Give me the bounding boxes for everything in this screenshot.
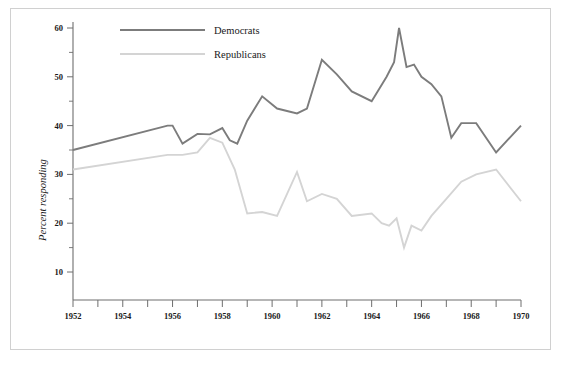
y-tick-label: 20	[55, 218, 64, 228]
y-tick-label: 50	[55, 72, 64, 82]
data-series-group	[73, 28, 521, 248]
x-tick-label: 1968	[463, 311, 480, 321]
x-tick-label: 1956	[164, 311, 181, 321]
x-tick-label: 1964	[363, 311, 381, 321]
y-axis-title: Percent responding	[37, 159, 48, 242]
legend-label-republicans: Republicans	[214, 49, 266, 60]
x-tick-label: 1960	[264, 311, 281, 321]
x-tick-label: 1962	[313, 311, 330, 321]
y-tick-label: 30	[55, 169, 64, 179]
y-tick-label: 40	[55, 121, 64, 131]
series-line-republicans	[73, 138, 521, 248]
y-axis-tick-labels: 102030405060	[55, 23, 64, 277]
x-axis-tick-labels: 1952195419561958196019621964196619681970	[65, 311, 530, 321]
chart-figure: 102030405060 195219541956195819601962196…	[0, 0, 565, 365]
legend-label-democrats: Democrats	[214, 25, 259, 36]
axes-group	[73, 22, 521, 300]
x-tick-label: 1958	[214, 311, 231, 321]
y-tick-label: 10	[55, 267, 64, 277]
chart-legend: DemocratsRepublicans	[120, 25, 266, 60]
x-tick-label: 1952	[65, 311, 82, 321]
series-line-democrats	[73, 28, 521, 152]
line-chart-svg: 102030405060 195219541956195819601962196…	[0, 0, 565, 365]
y-axis-ticks	[67, 28, 73, 272]
x-tick-label: 1954	[114, 311, 132, 321]
x-axis-ticks	[73, 300, 521, 307]
x-tick-label: 1966	[413, 311, 430, 321]
x-tick-label: 1970	[513, 311, 530, 321]
y-tick-label: 60	[55, 23, 64, 33]
